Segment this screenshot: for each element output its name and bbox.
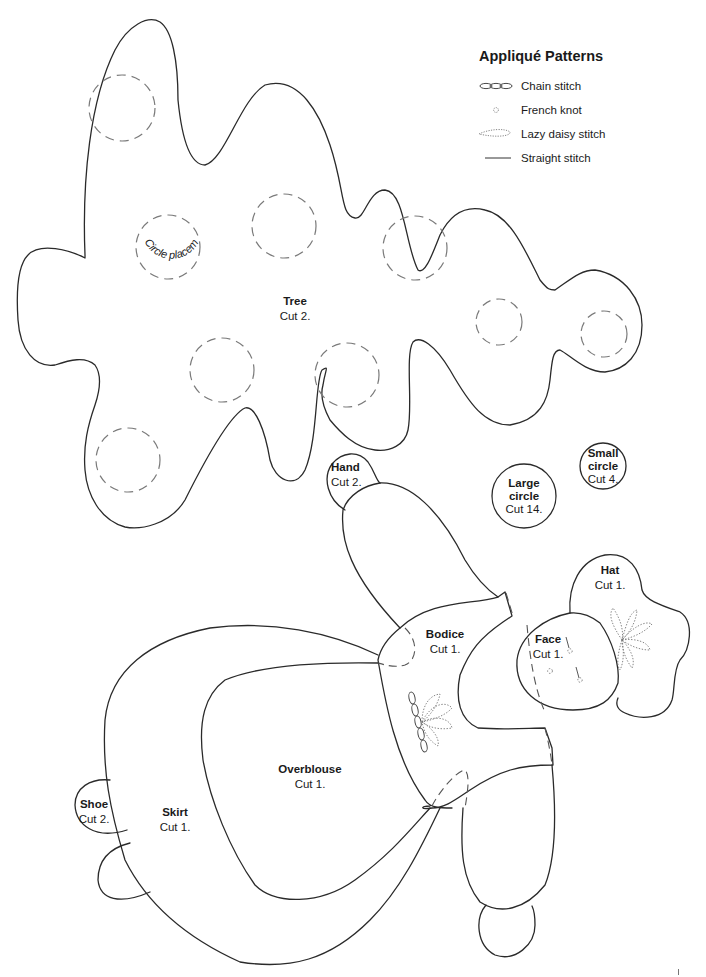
piece-name: Skirt [155, 805, 195, 820]
piece-cut: Cut 1. [275, 777, 345, 792]
french-knot-icon [477, 104, 515, 116]
piece-name: Hat [590, 563, 630, 578]
tree-placement-circle [383, 216, 447, 280]
legend-title: Appliqué Patterns [479, 48, 605, 64]
tree-placement-circle [252, 194, 316, 258]
skirt-outline [104, 626, 440, 965]
piece-name: Face [528, 632, 568, 647]
tree-placement-circle [96, 428, 160, 492]
legend-item-french-knot: French knot [477, 98, 605, 122]
straight-stitch-icon [477, 152, 515, 164]
page-edge-tick [678, 969, 679, 975]
piece-cut: Cut 2. [331, 475, 371, 490]
bodice-lazy-daisy [422, 694, 452, 746]
legend: Appliqué Patterns Chain stitch French kn… [477, 48, 605, 170]
piece-name: Small [580, 447, 626, 460]
piece-name: circle [499, 490, 549, 503]
tree-placement-circle [89, 75, 155, 141]
piece-cut: Cut 1. [420, 642, 470, 657]
tree-label: Tree Cut 2. [270, 294, 320, 324]
small-circle-label: Small circle Cut 4. [580, 447, 626, 486]
face-label: Face Cut 1. [528, 632, 568, 662]
shoe-outline-back [98, 843, 150, 899]
hat-label: Hat Cut 1. [590, 563, 630, 593]
bodice-outline [378, 592, 553, 809]
legend-item-straight-stitch: Straight stitch [477, 146, 605, 170]
legend-item-lazy-daisy-stitch: Lazy daisy stitch [477, 122, 605, 146]
shoe-label: Shoe Cut 2. [73, 797, 115, 827]
bodice-label: Bodice Cut 1. [420, 627, 470, 657]
foot-outline [479, 905, 535, 957]
piece-name: circle [580, 460, 626, 473]
piece-name: Tree [270, 294, 320, 309]
legend-label: French knot [521, 104, 582, 116]
piece-name: Hand [331, 460, 371, 475]
piece-name: Bodice [420, 627, 470, 642]
tree-placement-circle [476, 299, 522, 345]
bodice-chain-stitch [408, 692, 428, 753]
chain-stitch-icon [477, 80, 515, 92]
piece-name: Large [499, 477, 549, 490]
overblouse-label: Overblouse Cut 1. [275, 762, 345, 792]
piece-name: Shoe [73, 797, 115, 812]
piece-cut: Cut 1. [155, 820, 195, 835]
piece-cut: Cut 2. [73, 812, 115, 827]
lazy-daisy-stitch-icon [477, 128, 515, 140]
piece-cut: Cut 1. [590, 578, 630, 593]
tree-placement-circle [190, 338, 254, 402]
legend-item-chain-stitch: Chain stitch [477, 74, 605, 98]
piece-cut: Cut 1. [528, 647, 568, 662]
piece-name: Overblouse [275, 762, 345, 777]
tree-placement-circle [581, 311, 627, 357]
piece-cut: Cut 14. [499, 503, 549, 516]
large-circle-label: Large circle Cut 14. [499, 477, 549, 516]
hand-label: Hand Cut 2. [331, 460, 371, 490]
legend-label: Lazy daisy stitch [521, 128, 605, 140]
skirt-label: Skirt Cut 1. [155, 805, 195, 835]
legend-label: Chain stitch [521, 80, 581, 92]
legend-label: Straight stitch [521, 152, 591, 164]
sleeve-outline [343, 483, 498, 628]
piece-cut: Cut 4. [580, 473, 626, 486]
bodice-dashed-edge [506, 593, 513, 616]
piece-cut: Cut 2. [270, 309, 320, 324]
